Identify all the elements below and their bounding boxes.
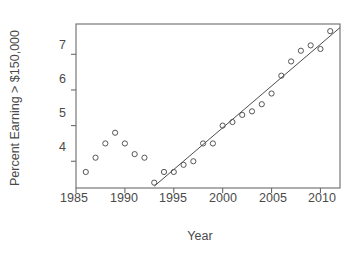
data-point (210, 141, 215, 146)
data-point (161, 169, 166, 174)
x-axis-title: Year (187, 229, 212, 243)
data-point (142, 155, 147, 160)
data-point (181, 162, 186, 167)
data-point (298, 48, 303, 53)
data-point (122, 141, 127, 146)
x-axis-tick-label: 1985 (60, 191, 88, 205)
x-axis-tick-label: 2000 (209, 191, 237, 205)
y-axis-tick-label: 6 (59, 72, 66, 86)
data-point (289, 59, 294, 64)
data-point (93, 155, 98, 160)
y-axis-tick-label: 5 (59, 106, 66, 120)
data-point (318, 46, 323, 51)
x-axis-tick-label: 2010 (308, 191, 336, 205)
data-point (113, 130, 118, 135)
data-point (269, 91, 274, 96)
y-axis-title: Percent Earning > $150,000 (8, 30, 22, 186)
scatter-plot-figure: 4 5 6 7 1985 1990 1995 2000 2005 2010 Ye… (0, 0, 354, 259)
data-point (249, 109, 254, 114)
data-point (132, 152, 137, 157)
x-axis-tick-label: 1995 (159, 191, 187, 205)
y-axis-tick-label: 7 (59, 38, 66, 52)
data-point (240, 112, 245, 117)
data-point (259, 102, 264, 107)
data-point (328, 29, 333, 34)
plot-canvas: 4 5 6 7 1985 1990 1995 2000 2005 2010 Ye… (0, 0, 354, 259)
data-point (152, 180, 157, 185)
data-point (83, 169, 88, 174)
data-point (191, 159, 196, 164)
data-point (103, 141, 108, 146)
y-axis-tick-label: 4 (59, 140, 66, 154)
data-point (230, 119, 235, 124)
data-point (308, 43, 313, 48)
x-axis-tick-label: 2005 (259, 191, 287, 205)
x-axis-tick-label: 1990 (110, 191, 138, 205)
